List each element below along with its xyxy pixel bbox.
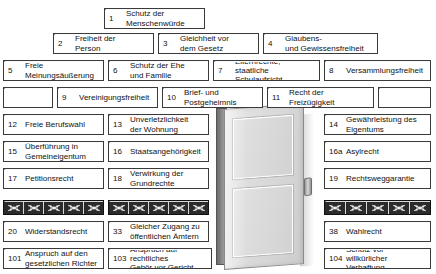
brick-article-label: Petitionsrecht: [23, 174, 100, 183]
wall-brick-article-16a: 16aAsylrecht: [324, 141, 431, 162]
brick-article-label: Widerstandsrecht: [23, 227, 100, 236]
wall-brick-article-12: 12Freie Berufswahl: [3, 114, 104, 135]
barbed-wire-cells: [4, 201, 103, 214]
open-door: [216, 106, 326, 266]
brick-article-number: 17: [8, 174, 23, 183]
wall-brick-article-7: 7Elternrechte, staatliche Schulaufsicht: [213, 60, 320, 81]
brick-article-number: 1: [109, 14, 124, 23]
brick-article-label: Recht der Freizügigkeit: [287, 88, 370, 106]
brick-article-label: Überführung in Gemeineigentum: [23, 142, 100, 160]
barbed-wire-bowtie-icon: [112, 204, 125, 211]
barbed-wire-cell: [24, 201, 44, 214]
barbed-wire-bowtie-icon: [371, 204, 384, 211]
wall-brick-blank: [3, 87, 53, 108]
brick-article-label: Unverletzlichkeit der Wohnung: [128, 115, 205, 133]
barbed-wire-cell: [109, 201, 129, 214]
brick-article-number: 104: [329, 254, 344, 263]
barbed-wire-cell: [129, 201, 149, 214]
brick-article-label: Verwirkung der Grundrechte: [128, 169, 205, 187]
brick-article-number: 12: [8, 120, 23, 129]
door-panel-bottom: [233, 185, 293, 257]
barbed-wire-cells: [109, 201, 208, 214]
brick-article-number: 101: [8, 254, 23, 263]
wall-brick-article-104: 104Schutz vor willkürlicher Verhaftung: [324, 248, 431, 269]
wall-brick-article-10: 10Brief- und Postgeheimnis: [162, 87, 263, 108]
wall-brick-blank: [378, 87, 431, 108]
barbed-wire-bowtie-icon: [7, 204, 20, 211]
barbed-wire-bowtie-icon: [350, 204, 363, 211]
brick-article-label: Glaubens- und Gewissensfreiheit: [283, 34, 374, 52]
wall-brick-article-6: 6Schutz der Ehe und Familie: [108, 60, 209, 81]
brick-article-number: 18: [113, 174, 128, 183]
wall-brick-article-20: 20Widerstandsrecht: [3, 221, 104, 242]
wall-brick-article-38: 38Wahlrecht: [324, 221, 431, 242]
brick-article-label: Asylrecht: [344, 147, 427, 156]
wall-brick-article-2: 2Freiheit der Person: [53, 33, 154, 54]
barbed-wire-course: [3, 200, 104, 215]
grundrechte-wall-diagram: 1Schutz der Menschenwürde2Freiheit der P…: [0, 0, 436, 274]
wall-brick-article-19: 19Rechtsweggarantie: [324, 168, 431, 189]
barbed-wire-bowtie-icon: [192, 204, 205, 211]
wall-brick-article-18: 18Verwirkung der Grundrechte: [108, 168, 209, 189]
brick-article-label: Vereinigungsfreiheit: [77, 93, 154, 102]
brick-article-label: Gleichheit vor dem Gesetz: [178, 34, 255, 52]
wall-brick-article-9: 9Vereinigungsfreiheit: [57, 87, 158, 108]
brick-article-label: Freiheit der Person: [73, 34, 150, 52]
barbed-wire-bowtie-icon: [27, 204, 40, 211]
barbed-wire-bowtie-icon: [413, 204, 426, 211]
barbed-wire-bowtie-icon: [172, 204, 185, 211]
barbed-wire-cell: [389, 201, 410, 214]
wall-brick-article-15: 15Überführung in Gemeineigentum: [3, 141, 104, 162]
brick-article-label: Gewährleistung des Eigentums: [344, 115, 427, 133]
barbed-wire-bowtie-icon: [392, 204, 405, 211]
brick-article-number: 8: [329, 66, 344, 75]
brick-article-label: Elternrechte, staatliche Schulaufsicht: [233, 60, 316, 81]
brick-article-label: Anspruch auf den gesetzlichen Richter: [23, 249, 100, 267]
brick-article-number: 33: [113, 227, 128, 236]
barbed-wire-bowtie-icon: [329, 204, 342, 211]
barbed-wire-bowtie-icon: [67, 204, 80, 211]
barbed-wire-course: [108, 200, 209, 215]
brick-article-number: 38: [329, 227, 344, 236]
brick-article-label: Brief- und Postgeheimnis: [182, 88, 259, 106]
barbed-wire-bowtie-icon: [87, 204, 100, 211]
brick-article-number: 15: [8, 147, 23, 156]
door-leaf: [224, 103, 304, 270]
brick-article-number: 20: [8, 227, 23, 236]
barbed-wire-course: [324, 200, 431, 215]
brick-article-number: 11: [272, 93, 287, 102]
brick-article-label: Schutz der Ehe und Familie: [128, 61, 205, 79]
wall-brick-article-11: 11Recht der Freizügigkeit: [267, 87, 374, 108]
brick-article-number: 6: [113, 66, 128, 75]
brick-article-number: 103: [113, 254, 128, 263]
brick-article-number: 10: [167, 93, 182, 102]
wall-brick-article-101: 101Anspruch auf den gesetzlichen Richter: [3, 248, 104, 269]
wall-brick-article-103: 103Anspruch auf rechtliches Gehör vor Ge…: [108, 248, 212, 269]
wall-brick-article-16: 16Staatsangehörigkeit: [108, 141, 209, 162]
barbed-wire-cell: [169, 201, 189, 214]
barbed-wire-bowtie-icon: [47, 204, 60, 211]
brick-article-number: 3: [163, 39, 178, 48]
wall-brick-article-3: 3Gleichheit vor dem Gesetz: [158, 33, 259, 54]
brick-article-label: Freie Meinungsäußerung: [23, 61, 100, 79]
brick-article-number: 16a: [329, 147, 344, 156]
wall-brick-article-5: 5Freie Meinungsäußerung: [3, 60, 104, 81]
brick-article-number: 13: [113, 120, 128, 129]
wall-brick-article-13: 13Unverletzlichkeit der Wohnung: [108, 114, 209, 135]
door-panel-top: [233, 115, 293, 179]
barbed-wire-cells: [325, 201, 430, 214]
wall-brick-article-14: 14Gewährleistung des Eigentums: [324, 114, 431, 135]
brick-article-number: 5: [8, 66, 23, 75]
brick-article-number: 4: [268, 39, 283, 48]
barbed-wire-cell: [84, 201, 103, 214]
barbed-wire-cell: [346, 201, 367, 214]
barbed-wire-bowtie-icon: [132, 204, 145, 211]
brick-article-label: Versammlungsfreiheit: [344, 66, 427, 75]
wall-brick-article-33: 33Gleicher Zugang zu öffentlichen Ämtern: [108, 221, 209, 242]
brick-article-number: 19: [329, 174, 344, 183]
brick-article-label: Staatsangehörigkeit: [128, 147, 205, 156]
brick-article-number: 9: [62, 93, 77, 102]
barbed-wire-cell: [64, 201, 84, 214]
brick-article-label: Schutz vor willkürlicher Verhaftung: [344, 248, 427, 269]
wall-brick-article-8: 8Versammlungsfreiheit: [324, 60, 431, 81]
